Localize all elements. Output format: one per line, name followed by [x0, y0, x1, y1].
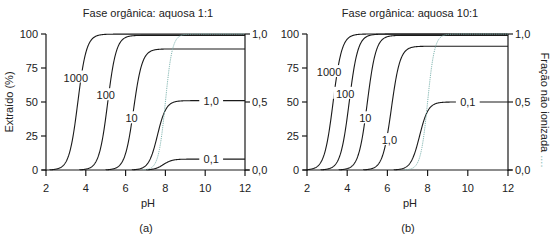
x-tick-label: 12	[239, 182, 251, 194]
y-tick-label: 50	[287, 96, 299, 108]
unionized-fraction-curve	[143, 34, 245, 170]
x-tick-label: 4	[344, 182, 350, 194]
curve-label: 100	[336, 88, 354, 100]
x-tick-label: 6	[123, 182, 129, 194]
y-axis-label: Extraído (%)	[3, 71, 15, 132]
y2-tick-label: 0,0	[252, 164, 267, 176]
panel-caption: (a)	[139, 222, 152, 234]
y-tick-label: 100	[20, 28, 38, 40]
y-tick-label: 25	[287, 130, 299, 142]
y-tick-label: 75	[287, 62, 299, 74]
curve-label: 0,1	[204, 153, 219, 165]
x-axis-label: pH	[141, 197, 155, 209]
x-tick-label: 4	[83, 182, 89, 194]
x-tick-label: 2	[304, 182, 310, 194]
y2-tick-label: 1,0	[515, 28, 530, 40]
x-tick-label: 10	[199, 182, 211, 194]
dotted-legend-marker: ....	[539, 155, 551, 167]
y2-tick-label: 0,5	[515, 96, 530, 108]
y2-tick-label: 0,5	[252, 96, 267, 108]
chart-title: Fase orgânica: aquosa 1:1	[83, 7, 213, 19]
x-axis-label: pH	[403, 197, 417, 209]
y-tick-label: 25	[26, 130, 38, 142]
curve-label: 1000	[64, 72, 88, 84]
x-tick-label: 6	[384, 182, 390, 194]
y-tick-label: 0	[293, 164, 299, 176]
x-tick-label: 12	[502, 182, 514, 194]
y2-axis-label: Fração não ionizada ....	[539, 53, 551, 168]
curve-label: 0,1	[460, 96, 475, 108]
y-tick-label: 0	[32, 164, 38, 176]
extraction-chart-figure: Fase orgânica: aquosa 1:102550751000,00,…	[0, 0, 559, 242]
extraction-curve-D-10	[339, 35, 508, 170]
y-tick-label: 75	[26, 62, 38, 74]
chart-panel-b: Fase orgânica: aquosa 10:102550751000,00…	[281, 7, 551, 234]
y-tick-label: 50	[26, 96, 38, 108]
chart-title: Fase orgânica: aquosa 10:1	[342, 7, 478, 19]
curve-label: 1,0	[382, 134, 397, 146]
curve-label: 1000	[317, 66, 341, 78]
x-tick-label: 10	[462, 182, 474, 194]
extraction-curve-D-1-0	[364, 46, 508, 170]
curve-label: 10	[125, 112, 137, 124]
curve-label: 100	[97, 89, 115, 101]
y2-tick-label: 0,0	[515, 164, 530, 176]
extraction-curve-D-0-1	[394, 102, 508, 170]
y-tick-label: 100	[281, 28, 299, 40]
x-tick-label: 8	[162, 182, 168, 194]
x-tick-label: 2	[43, 182, 49, 194]
extraction-curve-D-0-1	[146, 159, 245, 170]
chart-panel-a: Fase orgânica: aquosa 1:102550751000,00,…	[3, 7, 267, 234]
extraction-curve-D-10	[106, 49, 245, 170]
panel-caption: (b)	[401, 222, 414, 234]
y2-tick-label: 1,0	[252, 28, 267, 40]
x-tick-label: 8	[425, 182, 431, 194]
curve-label: 10	[359, 112, 371, 124]
curve-label: 1,0	[204, 95, 219, 107]
